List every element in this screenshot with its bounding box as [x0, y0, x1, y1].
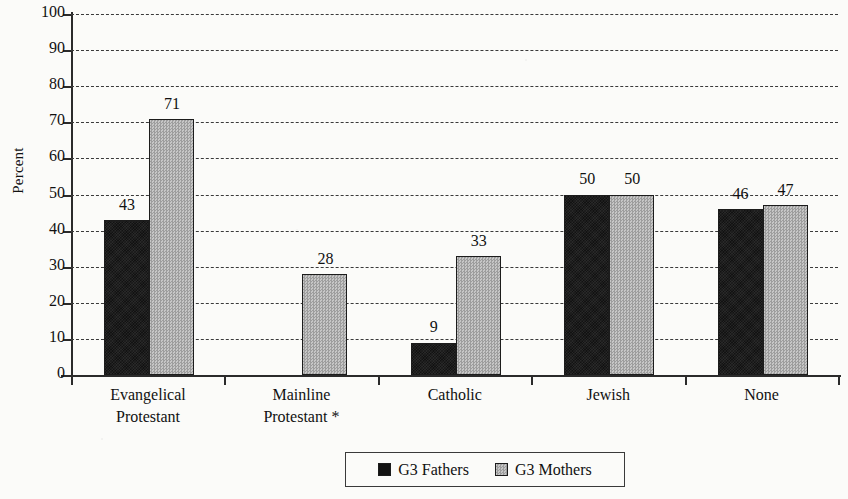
y-tick-label-80: 80 [49, 75, 65, 93]
bar-group-mainline-protestant: 28 [224, 14, 377, 375]
bar-group-catholic: 9 33 [378, 14, 531, 375]
black-square-icon [378, 463, 391, 476]
y-tick-label-90: 90 [49, 39, 65, 57]
bar-mothers-evangelical-protestant[interactable] [149, 119, 194, 375]
bar-value-mothers-catholic: 33 [449, 233, 509, 249]
x-category-label-catholic: Catholic [378, 384, 532, 406]
y-tick-label-30: 30 [49, 256, 65, 274]
x-category-label-mainline-protestant: Mainline Protestant * [224, 384, 378, 427]
chart-legend: G3 Fathers G3 Mothers [345, 452, 625, 487]
x-category-line2: Protestant [71, 406, 225, 428]
y-tick-label-70: 70 [49, 111, 65, 129]
bar-mothers-catholic[interactable] [456, 256, 501, 375]
legend-label-g3-fathers: G3 Fathers [398, 461, 469, 479]
x-category-label-none: None [685, 384, 839, 406]
legend-item-g3-mothers[interactable]: G3 Mothers [495, 461, 592, 479]
bar-value-mothers-none: 47 [756, 182, 816, 198]
bar-mothers-jewish[interactable] [609, 195, 654, 376]
bar-value-fathers-catholic: 9 [404, 319, 464, 335]
x-category-line1: Evangelical [71, 384, 225, 406]
x-category-label-evangelical-protestant: Evangelical Protestant [71, 384, 225, 427]
bar-mothers-mainline-protestant[interactable] [302, 274, 347, 375]
bar-value-mothers-jewish: 50 [602, 171, 662, 187]
legend-label-g3-mothers: G3 Mothers [515, 461, 592, 479]
bar-group-evangelical-protestant: 43 71 [71, 14, 224, 375]
x-category-line1: Jewish [531, 384, 685, 406]
bar-fathers-evangelical-protestant[interactable] [104, 220, 149, 375]
y-tick-label-60: 60 [49, 147, 65, 165]
bar-chart-figure: Percent 100 90 80 70 6 [0, 0, 848, 499]
y-tick-label-0: 0 [57, 364, 65, 382]
bar-group-none: 46 47 [685, 14, 838, 375]
y-tick-label-40: 40 [49, 220, 65, 238]
bar-mothers-none[interactable] [763, 205, 808, 375]
plot-area: 100 90 80 70 60 50 40 30 [71, 14, 838, 375]
legend-item-g3-fathers[interactable]: G3 Fathers [378, 461, 469, 479]
y-axis-title: Percent [10, 131, 27, 211]
x-category-line1: Catholic [378, 384, 532, 406]
gray-square-icon [495, 463, 508, 476]
bar-fathers-none[interactable] [718, 209, 763, 375]
x-category-label-jewish: Jewish [531, 384, 685, 406]
x-category-line2: Protestant * [224, 406, 378, 428]
x-category-line1: None [685, 384, 839, 406]
bar-fathers-jewish[interactable] [564, 195, 609, 376]
y-tick-label-10: 10 [49, 328, 65, 346]
bar-value-mothers-evangelical-protestant: 71 [142, 96, 202, 112]
x-axis-line [61, 375, 841, 377]
y-tick-label-50: 50 [49, 184, 65, 202]
y-tick-label-20: 20 [49, 292, 65, 310]
bar-value-fathers-evangelical-protestant: 43 [97, 197, 157, 213]
x-category-line1: Mainline [224, 384, 378, 406]
bar-group-jewish: 50 50 [531, 14, 684, 375]
bar-value-mothers-mainline-protestant: 28 [295, 251, 355, 267]
bar-fathers-catholic[interactable] [411, 343, 456, 376]
y-tick-label-100: 100 [41, 3, 65, 21]
